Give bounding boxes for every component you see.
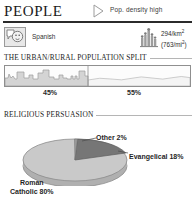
language-label: Spanish <box>32 33 56 40</box>
urban-rural-heading: THE URBAN/RURAL POPULATION SPLIT <box>0 53 195 64</box>
urban-rural-percentages: 45% 55% <box>0 89 195 99</box>
fact-row: Spanish 294/km2 (763/mi2) <box>0 26 195 52</box>
population-density-icon <box>140 26 158 48</box>
header-divider <box>3 21 192 23</box>
religion-pie-chart: Other 2% Evangelical 18% Roman Catholic … <box>0 122 195 197</box>
density-metric: 294/km2 <box>161 28 187 39</box>
page-title: PEOPLE <box>4 2 63 20</box>
urban-percentage: 45% <box>43 89 57 96</box>
rural-percentage: 55% <box>127 89 141 96</box>
density-note: Pop. density high <box>110 6 162 13</box>
religion-heading: RELIGIOUS PERSUASION <box>0 110 195 121</box>
heading-text: RELIGIOUS PERSUASION <box>4 110 96 119</box>
population-density-values: 294/km2 (763/mi2) <box>161 28 187 49</box>
pie-label-other: Other 2% <box>96 134 127 141</box>
pie-label-catholic: Roman Catholic 80% <box>10 178 54 196</box>
urban-rural-chart <box>4 65 191 87</box>
pie-label-evangelical: Evangelical 18% <box>129 153 183 160</box>
urban-rural-section: THE URBAN/RURAL POPULATION SPLIT 45% 55% <box>0 53 195 64</box>
catholic-line-1: Roman <box>20 179 44 186</box>
page-header: PEOPLE Pop. density high <box>0 0 195 24</box>
triangle-right-icon <box>93 4 104 18</box>
density-imperial: (763/mi2) <box>161 39 187 50</box>
speech-face-icon <box>4 27 26 47</box>
catholic-line-2: Catholic 80% <box>10 188 54 195</box>
heading-text: THE URBAN/RURAL POPULATION SPLIT <box>4 53 150 62</box>
religion-section: RELIGIOUS PERSUASION Other 2% E <box>0 110 195 197</box>
